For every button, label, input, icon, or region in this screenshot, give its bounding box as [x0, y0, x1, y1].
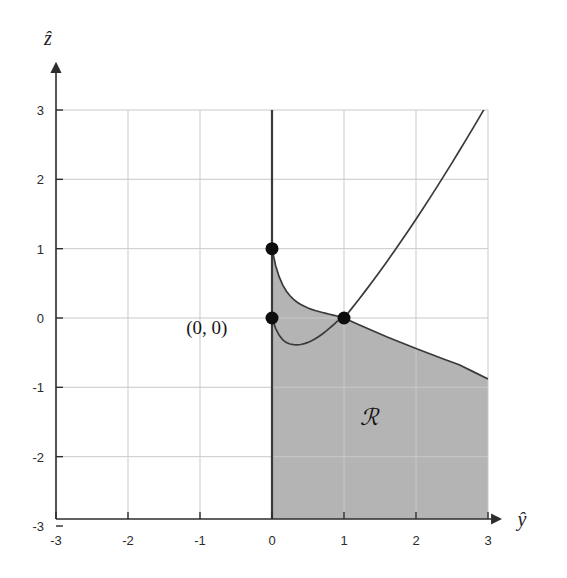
y-tick-label-3: 3	[37, 103, 44, 118]
region-label: ℛ	[360, 405, 380, 430]
x-tick-label--2: -2	[122, 533, 134, 548]
marked-point-0-1	[266, 242, 279, 255]
origin-point-label: (0, 0)	[186, 317, 227, 339]
x-tick-label-1: 1	[340, 533, 347, 548]
marked-point-0-0	[266, 312, 279, 325]
x-tick-label--3: -3	[50, 533, 62, 548]
figure-root: -3-2-10123 3210-1-2-3 (0, 0) ℛ ẑ ŷ	[0, 0, 567, 578]
x-axis-label: ŷ	[516, 508, 527, 531]
y-tick-label--3: -3	[32, 519, 44, 534]
x-tick-label--1: -1	[194, 533, 206, 548]
plot-canvas: -3-2-10123 3210-1-2-3 (0, 0) ℛ ẑ ŷ	[0, 0, 567, 578]
x-tick-label-0: 0	[268, 533, 275, 548]
y-tick-label-2: 2	[37, 172, 44, 187]
y-tick-label-1: 1	[37, 242, 44, 257]
y-axis-label: ẑ	[43, 27, 52, 49]
y-tick-label--2: -2	[32, 450, 44, 465]
y-tick-label--1: -1	[32, 380, 44, 395]
y-tick-label-0: 0	[37, 311, 44, 326]
x-tick-label-2: 2	[412, 533, 419, 548]
marked-point-1-0	[338, 312, 351, 325]
x-tick-label-3: 3	[484, 533, 491, 548]
